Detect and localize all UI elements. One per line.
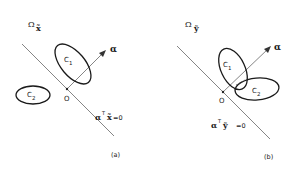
panel-b: Ω ỹ α O C 1 C 2 α T ỹ =0 (b) (177, 20, 281, 161)
hyperplane-sup-a: T (101, 110, 106, 116)
class2-sub-b: 2 (257, 91, 261, 97)
origin-label-a: O (64, 95, 70, 103)
hyperplane-sup-b: T (217, 118, 222, 124)
class1-sub-a: 1 (69, 60, 73, 66)
origin-point-a (66, 88, 68, 90)
hyperplane-vec-a: α (95, 112, 101, 122)
vector-label-a: α (110, 44, 117, 54)
hyperplane-var-a: x̃ (107, 112, 112, 122)
class-c1-ellipse-a (48, 38, 97, 90)
hyperplane-eq-b: =0 (236, 122, 246, 130)
class1-sub-b: 1 (228, 65, 232, 71)
panel-a: Ω x̃ α O C 1 C 2 α T x̃ =0 (a) (16, 20, 123, 159)
space-label-b: Ω (185, 20, 192, 29)
origin-label-b: O (219, 97, 225, 105)
space-sub-a: x̃ (36, 23, 41, 33)
hyperplane-var-b: ỹ (222, 120, 228, 130)
hyperplane-vec-b: α (211, 120, 217, 130)
caption-a: (a) (111, 151, 120, 159)
vector-label-b: α (274, 42, 281, 52)
class2-sub-a: 2 (32, 95, 36, 101)
figure: Ω x̃ α O C 1 C 2 α T x̃ =0 (a) Ω ỹ (0, 0, 295, 169)
caption-b: (b) (264, 153, 273, 161)
origin-point-b (222, 91, 224, 93)
space-sub-b: ỹ (193, 23, 199, 33)
hyperplane-eq-a: =0 (113, 114, 123, 122)
space-label-a: Ω (28, 20, 35, 29)
